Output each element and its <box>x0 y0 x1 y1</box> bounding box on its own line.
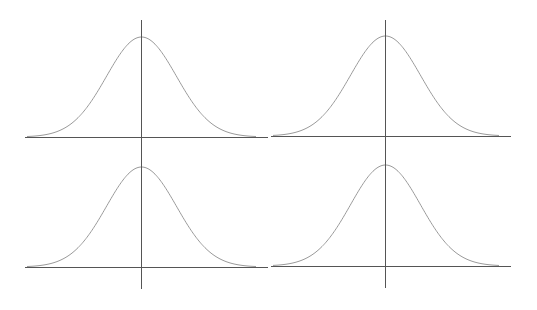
bell-curve-panel-top-left <box>25 20 268 154</box>
bell-curve-panel-bottom-right <box>271 150 511 288</box>
chart-canvas <box>0 0 537 310</box>
bell-curve-panel-top-right <box>271 20 511 154</box>
bell-curve-panel-bottom-left <box>25 150 268 289</box>
